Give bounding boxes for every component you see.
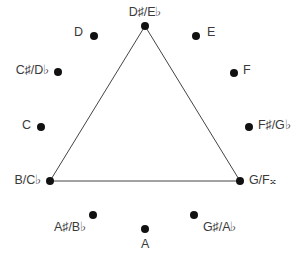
pitch-dot-icon bbox=[89, 211, 97, 219]
pitch-dot-icon bbox=[37, 123, 45, 131]
pitch-label: D bbox=[74, 26, 83, 39]
pitch-label: C bbox=[22, 119, 31, 132]
pitch-dot-icon bbox=[46, 177, 54, 185]
pitch-label: F bbox=[243, 64, 251, 77]
pitch-label: A bbox=[141, 238, 149, 251]
pitch-class-clock-diagram: D♯/E♭EFF♯/G♭G/F𝄪G♯/A♭AA♯/B♭B/C♭CC♯/D♭D bbox=[0, 0, 296, 259]
pitch-label: G/F𝄪 bbox=[249, 174, 275, 187]
pitch-label: A♯/B♭ bbox=[54, 221, 86, 234]
pitch-dot-icon bbox=[141, 225, 149, 233]
pitch-label: G♯/A♭ bbox=[203, 221, 236, 234]
pitch-dot-icon bbox=[54, 68, 62, 76]
pitch-dot-icon bbox=[230, 69, 238, 77]
pitch-dot-icon bbox=[245, 123, 253, 131]
pitch-dot-icon bbox=[90, 32, 98, 40]
pitch-dot-icon bbox=[192, 32, 200, 40]
pitch-label: E bbox=[207, 26, 215, 39]
augmented-triad-triangle bbox=[50, 26, 240, 181]
pitch-label: C♯/D♭ bbox=[16, 64, 49, 77]
pitch-dot-icon bbox=[141, 22, 149, 30]
pitch-dot-icon bbox=[236, 177, 244, 185]
pitch-dot-icon bbox=[190, 211, 198, 219]
pitch-label: D♯/E♭ bbox=[129, 6, 162, 19]
pitch-label: B/C♭ bbox=[15, 174, 41, 187]
pitch-label: F♯/G♭ bbox=[258, 119, 291, 132]
